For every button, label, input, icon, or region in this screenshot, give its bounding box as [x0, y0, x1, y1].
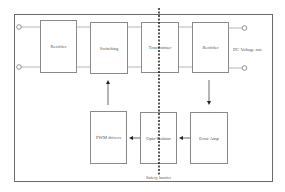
safety-barrier-line	[0, 0, 285, 192]
safety-barrier-label: Safety barrier	[146, 175, 171, 180]
dc-voltage-out-label: DC Voltage out	[233, 47, 261, 52]
